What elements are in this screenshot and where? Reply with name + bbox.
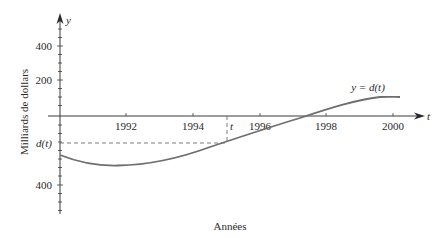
y-tick-label-200: 200 bbox=[36, 74, 53, 86]
x-axis-symbol: t bbox=[427, 110, 431, 122]
y-tick-label-neg400: 400 bbox=[36, 179, 53, 191]
x-tick-label-1994: 1994 bbox=[182, 120, 205, 132]
y-axis-title: Milliards de dollars bbox=[18, 69, 30, 155]
y-tick-label-400: 400 bbox=[36, 40, 53, 52]
y-axis: y 400 200 400 bbox=[36, 13, 72, 214]
x-tick-label-1992: 1992 bbox=[115, 120, 137, 132]
curve-label: y = d(t) bbox=[350, 81, 385, 94]
x-tick-label-1998: 1998 bbox=[315, 120, 338, 132]
y-axis-symbol: y bbox=[65, 14, 71, 26]
x-axis-title: Années bbox=[214, 220, 247, 232]
x-tick-label-2000: 2000 bbox=[382, 120, 405, 132]
d-of-t-label: d(t) bbox=[36, 137, 52, 150]
line-chart: y 400 200 400 1992 1994 1996 1998 2000 t… bbox=[0, 0, 445, 238]
t-marker-label: t bbox=[230, 120, 234, 132]
x-axis: 1992 1994 1996 1998 2000 t bbox=[48, 110, 431, 132]
